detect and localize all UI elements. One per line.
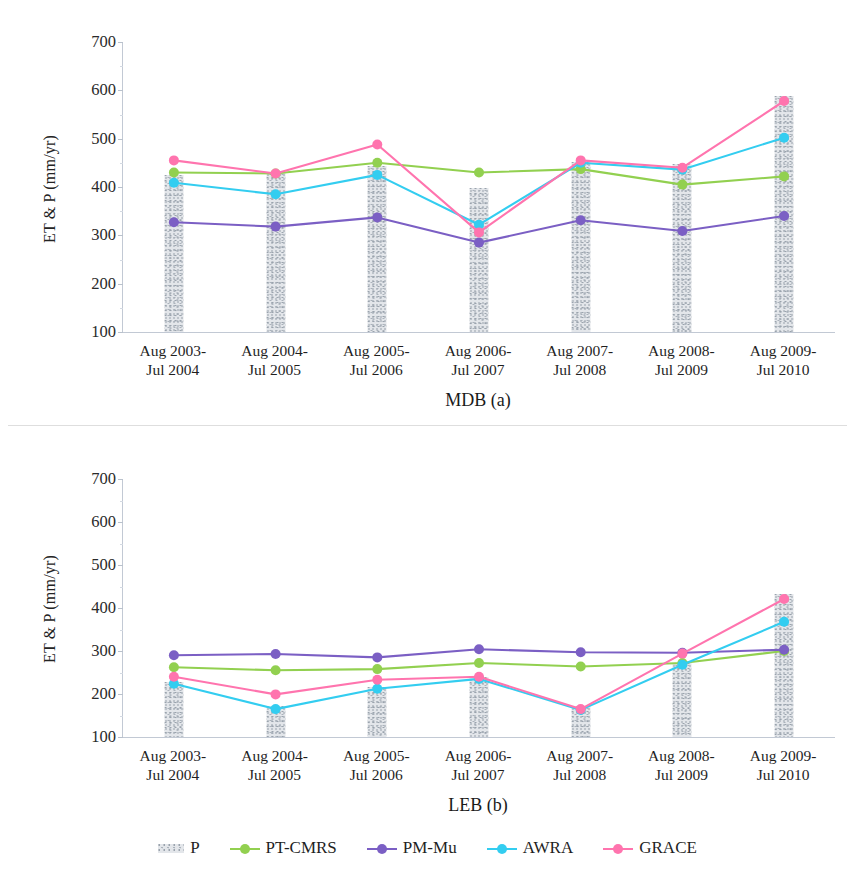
legend-label: GRACE	[639, 838, 697, 858]
marker-pm-mu	[779, 645, 789, 655]
y-tick-mark	[118, 737, 123, 738]
x-tick-label-line: Aug 2003-	[139, 746, 206, 765]
y-tick-label: 400	[91, 598, 116, 618]
marker-grace	[474, 672, 484, 682]
x-tick-label-line: Jul 2006	[343, 765, 410, 784]
y-tick-label: 200	[91, 274, 116, 294]
legend-swatch-line	[487, 842, 517, 855]
x-tick-label: Aug 2007-Jul 2008	[546, 746, 613, 784]
x-tick-label: Aug 2004-Jul 2005	[241, 746, 308, 784]
x-tick-label: Aug 2008-Jul 2009	[648, 341, 715, 379]
marker-awra	[677, 660, 687, 670]
marker-pt-cmrs	[474, 658, 484, 668]
x-tick-label: Aug 2003-Jul 2004	[139, 341, 206, 379]
legend-item-pm-mu: PM-Mu	[367, 838, 457, 858]
legend-label: PM-Mu	[403, 838, 457, 858]
x-tick-label-line: Jul 2008	[546, 360, 613, 379]
x-tick-label: Aug 2008-Jul 2009	[648, 746, 715, 784]
x-tick-label: Aug 2003-Jul 2004	[139, 746, 206, 784]
y-tick-label: 100	[91, 727, 116, 747]
marker-grace	[779, 96, 789, 106]
chart-title-mdb: MDB (a)	[122, 390, 834, 411]
x-tick-label-line: Jul 2006	[343, 360, 410, 379]
marker-grace	[677, 649, 687, 659]
legend-marker-dot	[240, 844, 250, 854]
chart-panel-mdb: ET & P (mm/yr) 100200300400500600700 Aug…	[0, 0, 855, 425]
marker-pm-mu	[169, 217, 179, 227]
y-axis-label-mdb: ET & P (mm/yr)	[41, 79, 59, 299]
marker-grace	[576, 155, 586, 165]
x-tick-label-line: Jul 2007	[445, 765, 512, 784]
y-axis-tick-labels-leb: 100200300400500600700	[70, 479, 116, 737]
marker-grace	[372, 140, 382, 150]
line-series-layer	[123, 479, 835, 737]
marker-pt-cmrs	[169, 662, 179, 672]
x-tick-label-line: Jul 2007	[445, 360, 512, 379]
marker-awra	[169, 178, 179, 188]
marker-awra	[779, 617, 789, 627]
x-tick-label-line: Aug 2006-	[445, 341, 512, 360]
marker-grace	[677, 163, 687, 173]
marker-pm-mu	[576, 215, 586, 225]
legend-marker-dot	[377, 844, 387, 854]
y-tick-label: 200	[91, 684, 116, 704]
marker-grace	[779, 594, 789, 604]
legend-swatch-line	[230, 842, 260, 855]
marker-pt-cmrs	[779, 171, 789, 181]
x-tick-label-line: Jul 2010	[750, 360, 817, 379]
x-tick-label: Aug 2005-Jul 2006	[343, 746, 410, 784]
x-tick-label-line: Aug 2003-	[139, 341, 206, 360]
y-tick-label: 300	[91, 225, 116, 245]
x-tick-label-line: Aug 2008-	[648, 341, 715, 360]
marker-pm-mu	[271, 222, 281, 232]
marker-pm-mu	[372, 212, 382, 222]
marker-pt-cmrs	[474, 168, 484, 178]
marker-awra	[779, 133, 789, 143]
y-axis-label-leb: ET & P (mm/yr)	[41, 499, 59, 719]
x-tick-label-line: Jul 2005	[241, 765, 308, 784]
x-tick-label-line: Aug 2008-	[648, 746, 715, 765]
x-tick-label-line: Jul 2004	[139, 360, 206, 379]
y-axis-tick-labels-mdb: 100200300400500600700	[70, 42, 116, 332]
legend-item-grace: GRACE	[603, 838, 697, 858]
legend-swatch-bar	[158, 844, 184, 853]
marker-awra	[271, 704, 281, 714]
plot-area-mdb	[122, 42, 835, 333]
legend-item-pt-cmrs: PT-CMRS	[230, 838, 337, 858]
x-tick-label: Aug 2009-Jul 2010	[750, 746, 817, 784]
y-tick-label: 600	[91, 512, 116, 532]
x-tick-label: Aug 2006-Jul 2007	[445, 341, 512, 379]
marker-pt-cmrs	[576, 662, 586, 672]
y-tick-label: 700	[91, 32, 116, 52]
y-tick-label: 100	[91, 322, 116, 342]
marker-pm-mu	[169, 650, 179, 660]
x-tick-label-line: Aug 2007-	[546, 341, 613, 360]
marker-grace	[271, 689, 281, 699]
legend-swatch-line	[603, 842, 633, 855]
marker-grace	[576, 704, 586, 714]
x-tick-label-line: Aug 2004-	[241, 341, 308, 360]
marker-awra	[271, 189, 281, 199]
marker-pt-cmrs	[271, 665, 281, 675]
marker-pm-mu	[779, 211, 789, 221]
y-tick-label: 700	[91, 469, 116, 489]
marker-grace	[169, 672, 179, 682]
legend-item-p: P	[158, 838, 199, 858]
marker-grace	[271, 169, 281, 179]
y-tick-mark	[118, 332, 123, 333]
x-tick-label-line: Jul 2008	[546, 765, 613, 784]
marker-pt-cmrs	[372, 158, 382, 168]
x-tick-label: Aug 2009-Jul 2010	[750, 341, 817, 379]
legend-label: AWRA	[523, 838, 574, 858]
legend-label: P	[190, 838, 199, 858]
legend-item-awra: AWRA	[487, 838, 574, 858]
chart-title-leb: LEB (b)	[122, 795, 834, 816]
x-tick-label-line: Aug 2005-	[343, 746, 410, 765]
y-tick-label: 400	[91, 177, 116, 197]
x-tick-label: Aug 2004-Jul 2005	[241, 341, 308, 379]
marker-pm-mu	[474, 238, 484, 248]
x-tick-label-line: Aug 2007-	[546, 746, 613, 765]
x-tick-label-line: Aug 2009-	[750, 746, 817, 765]
x-tick-label: Aug 2006-Jul 2007	[445, 746, 512, 784]
marker-awra	[372, 170, 382, 180]
